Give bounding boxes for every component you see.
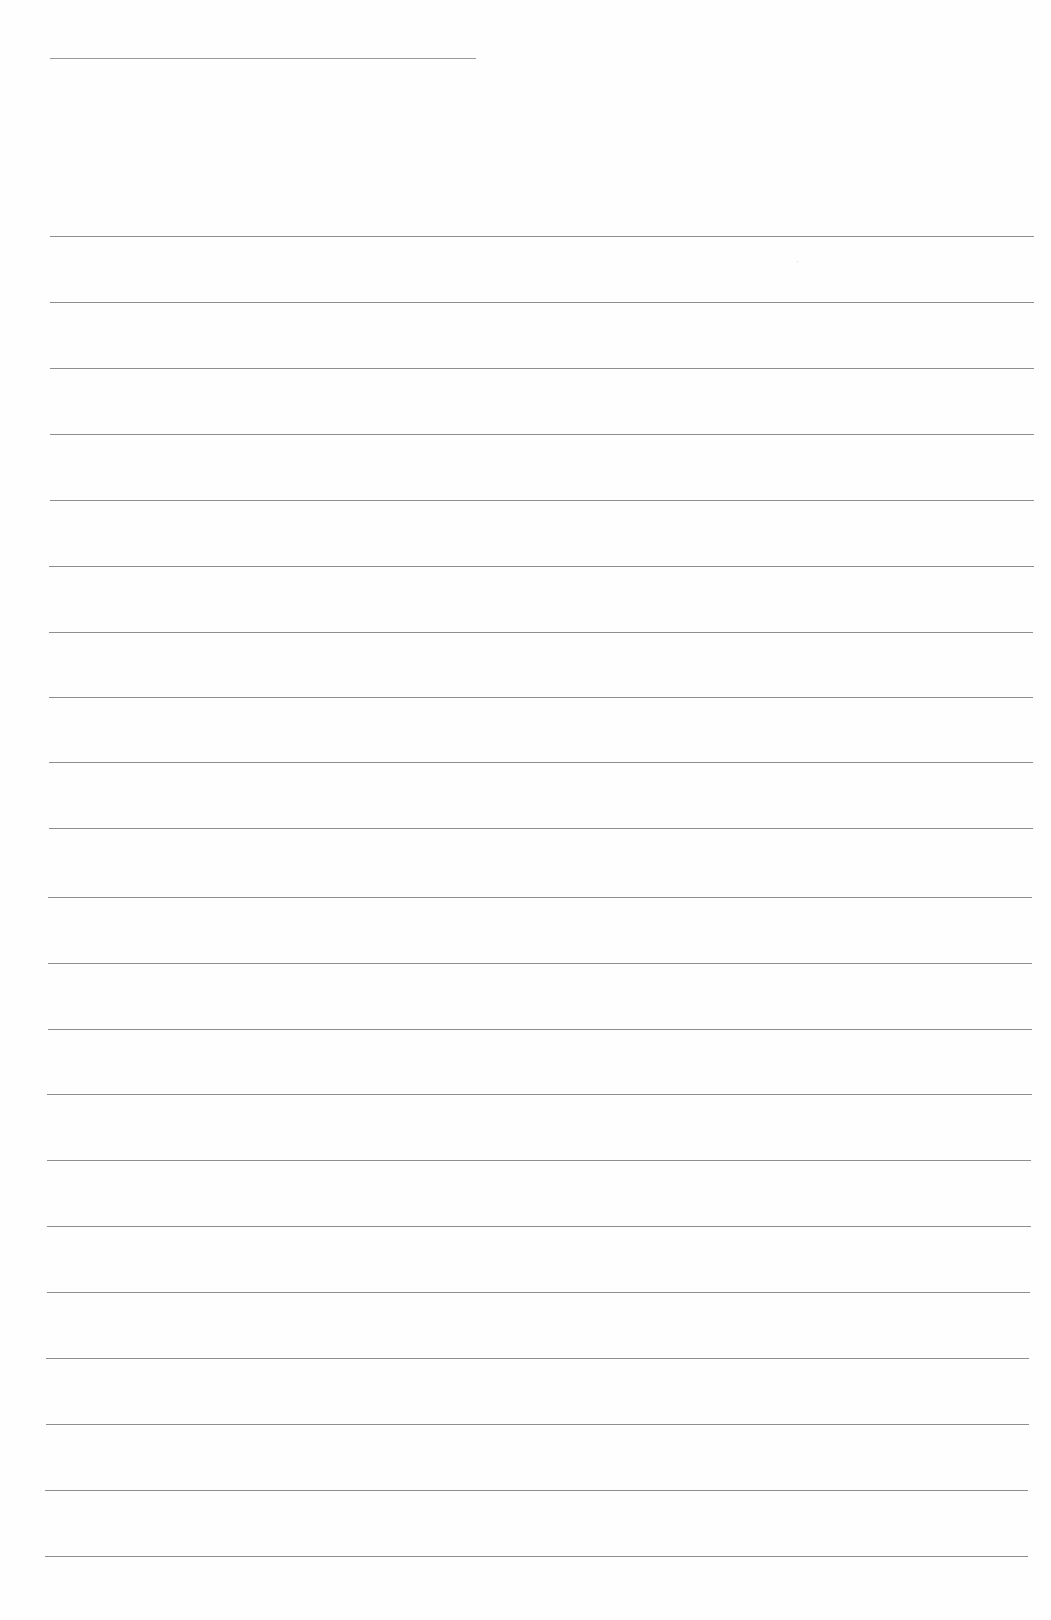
- title-line: [50, 58, 476, 59]
- ruled-line: [45, 1556, 1028, 1557]
- ruled-line: [50, 302, 1034, 303]
- lined-paper-page: [0, 0, 1051, 1620]
- ruled-line: [50, 434, 1034, 435]
- ruled-line: [49, 762, 1033, 763]
- ruled-line: [50, 236, 1034, 237]
- ruled-line: [45, 1490, 1028, 1491]
- ruled-line: [50, 368, 1034, 369]
- ruled-line: [47, 1160, 1031, 1161]
- ruled-line: [48, 1029, 1032, 1030]
- ruled-line: [49, 828, 1033, 829]
- ruled-line: [46, 1358, 1029, 1359]
- ruled-line: [47, 1226, 1031, 1227]
- ruled-line: [47, 1094, 1032, 1095]
- ruled-line: [48, 897, 1032, 898]
- ruled-line: [49, 566, 1034, 567]
- ruled-line: [49, 697, 1033, 698]
- ruled-line: [46, 1424, 1029, 1425]
- ruled-line: [48, 963, 1032, 964]
- ruled-line: [47, 1292, 1030, 1293]
- ruled-line: [50, 500, 1034, 501]
- paper-speck: [797, 261, 798, 262]
- ruled-line: [49, 632, 1033, 633]
